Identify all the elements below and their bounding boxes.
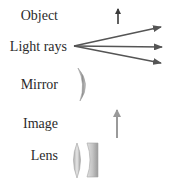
concave-lens-icon xyxy=(87,143,98,177)
optics-symbols xyxy=(0,0,176,188)
light-rays-icon xyxy=(74,27,162,63)
convex-lens-icon xyxy=(74,143,81,178)
mirror-icon xyxy=(78,68,86,101)
